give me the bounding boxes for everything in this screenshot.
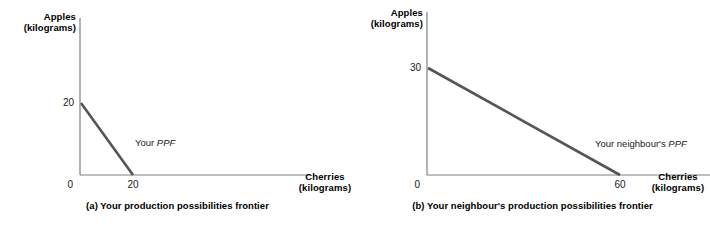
x-axis-title-b: Cherries (kilograms): [648, 172, 708, 194]
x-axis-title-line1-b: Cherries: [658, 171, 697, 182]
y-axis-title-a: Apples (kilograms): [4, 12, 76, 34]
y-tick-label-b: 30: [393, 62, 421, 74]
panel-neighbour-ppf: Apples (kilograms) 30 0 60 Cherries (kil…: [355, 0, 710, 231]
origin-label-b: 0: [404, 179, 420, 191]
ppf-annotation-prefix-a: Your: [135, 137, 157, 148]
x-axis-title-line2-b: (kilograms): [648, 183, 708, 194]
panel-caption-a: (a) Your production possibilities fronti…: [0, 200, 355, 211]
y-axis-title-line2-a: (kilograms): [4, 23, 76, 34]
y-axis-title-line1-b: Apples: [391, 7, 423, 18]
x-axis-title-line1-a: Cherries: [305, 171, 344, 182]
ppf-annotation-italic-a: PPF: [157, 137, 175, 148]
ppf-line-b: [428, 68, 620, 175]
ppf-line-a: [81, 103, 133, 175]
ppf-figure: Apples (kilograms) 20 0 20 Cherries (kil…: [0, 0, 710, 231]
y-axis-title-b: Apples (kilograms): [351, 8, 423, 30]
panel-your-ppf: Apples (kilograms) 20 0 20 Cherries (kil…: [0, 0, 355, 231]
x-axis-title-line2-a: (kilograms): [296, 183, 354, 194]
ppf-annotation-prefix-b: Your neighbour's: [595, 138, 668, 149]
x-tick-label-a: 20: [119, 179, 147, 191]
x-tick-label-b: 60: [606, 179, 634, 191]
plot-area-b: [355, 0, 710, 231]
y-axis-title-line1-a: Apples: [44, 11, 76, 22]
y-tick-label-a: 20: [46, 97, 74, 109]
x-axis-title-a: Cherries (kilograms): [296, 172, 354, 194]
ppf-annotation-italic-b: PPF: [668, 138, 686, 149]
ppf-annotation-b: Your neighbour's PPF: [595, 139, 687, 150]
ppf-annotation-a: Your PPF: [135, 138, 175, 149]
panel-caption-b: (b) Your neighbour's production possibil…: [355, 200, 710, 211]
y-axis-title-line2-b: (kilograms): [351, 19, 423, 30]
origin-label-a: 0: [57, 179, 73, 191]
plot-area-a: [0, 0, 355, 231]
